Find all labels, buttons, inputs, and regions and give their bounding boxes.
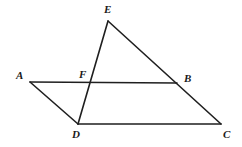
segment-AD xyxy=(30,82,78,124)
vertex-label-d: D xyxy=(72,129,80,140)
vertex-label-f: F xyxy=(79,69,86,80)
figure-canvas xyxy=(0,0,242,147)
vertex-label-e: E xyxy=(104,4,111,15)
segment-EC xyxy=(108,21,221,124)
geometry-figure: A B C D E F xyxy=(0,0,242,147)
vertex-label-b: B xyxy=(184,73,191,84)
segment-AB xyxy=(30,82,177,83)
vertex-label-a: A xyxy=(16,70,23,81)
vertex-label-c: C xyxy=(223,129,230,140)
